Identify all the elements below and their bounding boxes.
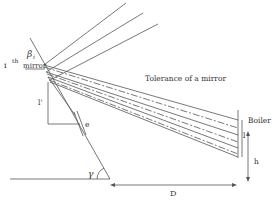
incident-ray [46,13,143,72]
label-gamma: γ [88,169,94,179]
label-mirror: mirror [23,62,47,70]
label-beta-sub: i [33,53,35,60]
reflected-ray-tolerance [49,80,238,154]
construction-line [48,77,75,115]
reflected-ray [48,77,238,148]
label-tolerance: Tolerance of a mirror [145,74,226,83]
label-h: h [254,157,259,166]
h-arrow-up [246,131,250,136]
label-boiler: Boiler [248,116,271,125]
label-l: l [243,131,246,140]
mirror-tolerance-diagram: i th mirror β i Tolerance of a mirror Bo… [0,0,278,201]
label-beta: β [26,49,32,59]
incident-ray [44,3,126,65]
label-D: D [170,189,176,198]
label-i: i [4,61,7,70]
gamma-arc [97,168,104,179]
D-arrow-left [110,183,115,187]
label-l-prime: l' [38,98,42,107]
reflected-ray-tolerance [47,74,238,142]
label-th: th [12,57,18,64]
D-arrow-right [232,183,237,187]
h-arrow-down [246,177,250,182]
label-e: e [85,120,90,129]
